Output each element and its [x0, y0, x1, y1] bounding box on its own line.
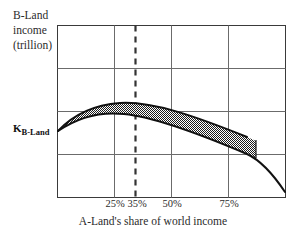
x-axis-caption: A-Land's share of world income	[0, 215, 306, 227]
x-tick-label-35: 35%	[120, 198, 154, 209]
x-tick-label-50: 50%	[155, 198, 189, 209]
figure-container: B-Land income (trillion) KB-Land	[0, 0, 306, 234]
x-tick-label-75: 75%	[212, 198, 246, 209]
